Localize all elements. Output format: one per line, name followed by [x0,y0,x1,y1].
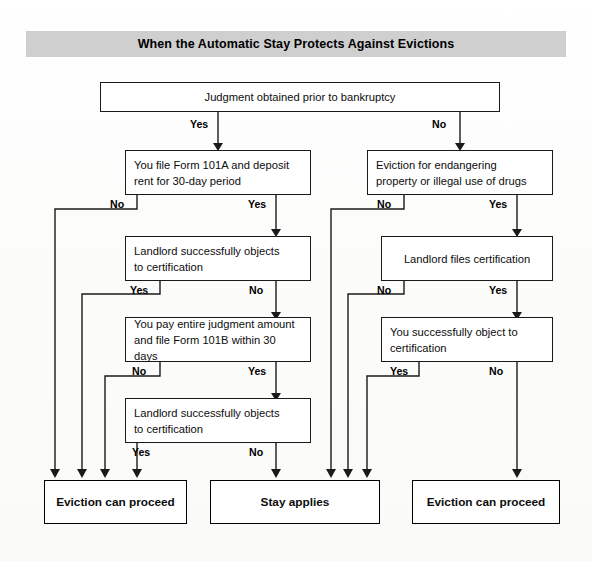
edge-label-r2-yes: Yes [489,284,507,296]
node-label-line2: to certification [134,259,302,275]
result-label: Eviction can proceed [56,494,175,510]
edge-label-top-no: No [432,118,446,130]
edge-label-top-yes: Yes [190,118,208,130]
node-landlord-objects-1[interactable]: Landlord successfully objects to certifi… [125,236,311,281]
edge-label-r3-yes: Yes [390,365,408,377]
node-eviction-endangering[interactable]: Eviction for endangering property or ill… [367,150,553,195]
result-label: Stay applies [261,494,330,510]
page-title: When the Automatic Stay Protects Against… [26,31,566,57]
node-landlord-files-certification[interactable]: Landlord files certification [381,236,553,281]
node-label-line2: certification [390,340,544,356]
node-label-line1: You pay entire judgment amount [134,316,302,332]
node-judgment-obtained[interactable]: Judgment obtained prior to bankruptcy [100,82,500,112]
node-label-line2: to certification [134,421,302,437]
edge-label-l2-no: No [249,284,263,296]
node-label-line1: Landlord successfully objects [134,405,302,421]
result-stay-applies[interactable]: Stay applies [210,480,380,524]
edge-label-r1-no: No [377,198,391,210]
edge-label-l3-yes: Yes [248,365,266,377]
node-landlord-objects-2[interactable]: Landlord successfully objects to certifi… [125,398,311,443]
edge-label-l3-no: No [132,365,146,377]
node-label: Landlord files certification [404,251,530,267]
node-pay-judgment-form-101b[interactable]: You pay entire judgment amount and file … [125,317,311,362]
node-label: Judgment obtained prior to bankruptcy [205,89,396,105]
edge-label-l1-no: No [110,198,124,210]
result-eviction-can-proceed-right[interactable]: Eviction can proceed [412,480,560,524]
edge-label-l4-yes: Yes [132,446,150,458]
node-label-line2: rent for 30-day period [134,173,302,189]
edge-label-r2-no: No [377,284,391,296]
node-file-form-101a[interactable]: You file Form 101A and deposit rent for … [125,150,311,195]
edge-label-l2-yes: Yes [130,284,148,296]
node-label-line1: You file Form 101A and deposit [134,157,302,173]
node-label-line2: property or illegal use of drugs [376,173,544,189]
result-eviction-can-proceed-left[interactable]: Eviction can proceed [44,480,187,524]
edge-label-l4-no: No [249,446,263,458]
node-label-line1: Eviction for endangering [376,157,544,173]
node-you-object-certification[interactable]: You successfully object to certification [381,317,553,362]
edge-label-r3-no: No [489,365,503,377]
node-label-line1: Landlord successfully objects [134,243,302,259]
node-label-line1: You successfully object to [390,324,544,340]
edge-label-l1-yes: Yes [248,198,266,210]
result-label: Eviction can proceed [427,494,546,510]
node-label-line2: and file Form 101B within 30 days [134,332,302,364]
edge-label-r1-yes: Yes [489,198,507,210]
